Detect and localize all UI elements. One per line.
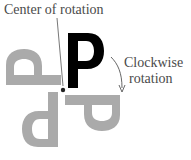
letter-p-rotated-90 bbox=[65, 95, 120, 131]
letter-p-rotated-180 bbox=[22, 92, 58, 147]
letter-p-rotated-270 bbox=[6, 49, 61, 85]
letter-p-original bbox=[68, 33, 104, 88]
center-of-rotation-dot bbox=[61, 88, 65, 92]
clockwise-arrow-icon bbox=[111, 57, 125, 92]
rotation-diagram bbox=[0, 0, 191, 160]
